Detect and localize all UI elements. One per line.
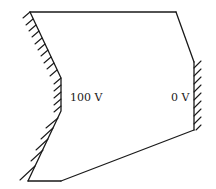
top-right-diagonal-edge <box>176 12 194 62</box>
right-electrode-hatching <box>194 61 201 130</box>
left-electrode-hatching-vertical <box>54 78 61 112</box>
left-electrode-label: 100 V <box>70 91 103 104</box>
free-boundary <box>28 12 194 181</box>
electrode-region-diagram: 100 V 0 V <box>0 0 216 189</box>
left-electrode <box>20 12 61 181</box>
right-electrode <box>194 61 201 130</box>
left-electrode-hatching-upper <box>23 12 57 76</box>
left-electrode-hatching-lower <box>20 118 58 180</box>
right-electrode-label: 0 V <box>171 91 190 104</box>
bottom-right-diagonal-edge <box>61 130 194 181</box>
